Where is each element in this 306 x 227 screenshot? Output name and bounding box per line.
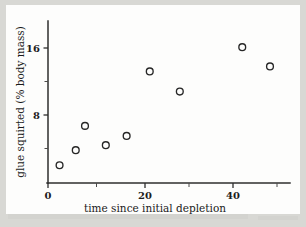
chart-plot-area: 16 8 0 20 40 time since initial depletio…	[0, 0, 306, 227]
data-point	[82, 122, 89, 129]
y-tick-labels: 16 8	[26, 43, 40, 121]
x-tick-label-40: 40	[226, 190, 240, 201]
scatter-chart-svg: 16 8 0 20 40 time since initial depletio…	[0, 0, 306, 227]
data-point	[146, 68, 153, 75]
x-tick-labels: 0 20 40	[45, 190, 240, 201]
y-tick-label-16: 16	[26, 43, 40, 54]
y-tick-label-8: 8	[33, 110, 40, 121]
data-point	[176, 88, 183, 95]
scatter-plot-screenshot: 16 8 0 20 40 time since initial depletio…	[0, 0, 306, 227]
data-point	[267, 63, 274, 70]
x-tick-label-0: 0	[45, 190, 52, 201]
x-tick-label-20: 20	[138, 190, 152, 201]
data-point-group	[56, 44, 273, 169]
data-point	[56, 162, 63, 169]
axes-group	[47, 21, 290, 183]
y-axis-title: glue squirted (% body mass)	[14, 26, 26, 178]
data-point	[239, 44, 246, 51]
data-point	[123, 133, 130, 140]
x-axis-title: time since initial depletion	[84, 202, 226, 214]
data-point	[102, 142, 109, 149]
data-point	[72, 147, 79, 154]
